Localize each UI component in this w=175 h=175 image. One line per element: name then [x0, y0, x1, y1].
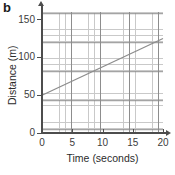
- x-axis-title: Time (seconds): [42, 153, 163, 164]
- y-tick-mark: [37, 19, 42, 20]
- x-tick-label: 20: [153, 138, 173, 148]
- y-tick-mark: [37, 57, 42, 58]
- x-tick-mark: [133, 129, 134, 134]
- y-tick-mark: [37, 95, 42, 96]
- x-tick-mark: [72, 129, 73, 134]
- x-tick-label: 0: [32, 138, 52, 148]
- x-axis-line: [42, 132, 167, 133]
- y-tick-label: 0: [29, 128, 35, 138]
- y-axis-title: Distance (m): [7, 20, 18, 130]
- y-tick-label: 50: [24, 90, 35, 100]
- x-tick-mark: [42, 129, 43, 134]
- x-axis-arrowhead-icon: [166, 130, 171, 136]
- x-tick-mark: [163, 129, 164, 134]
- y-axis-arrowhead-icon: [38, 1, 44, 6]
- y-axis-line: [41, 6, 42, 133]
- distance-time-graph-figure: b 050100150 05101520 Time (seconds) Dist…: [0, 0, 175, 175]
- series-line-distance-vs-time: [42, 38, 163, 95]
- x-tick-mark: [103, 129, 104, 134]
- y-tick-label: 100: [18, 52, 35, 62]
- y-tick-label: 150: [18, 15, 35, 25]
- data-series-layer: [42, 12, 163, 133]
- x-tick-label: 15: [123, 138, 143, 148]
- plot-area: [42, 12, 163, 133]
- x-tick-label: 5: [62, 138, 82, 148]
- x-tick-label: 10: [93, 138, 113, 148]
